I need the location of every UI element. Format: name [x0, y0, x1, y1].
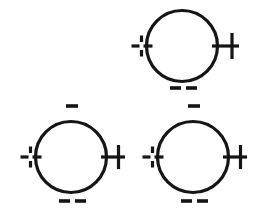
loop-top-circle — [147, 11, 218, 82]
loop-top — [132, 11, 240, 89]
loop-bottom-right-circle — [158, 122, 229, 193]
loop-bottom-left-marker-left-dashed-plus-icon — [21, 147, 42, 168]
loop-bottom-left — [21, 106, 126, 201]
loop-bottom-right-marker-left-dashed-plus-icon — [143, 147, 164, 168]
diagram-svg — [0, 0, 254, 217]
loop-bottom-right — [143, 106, 248, 201]
loop-bottom-left-circle — [36, 122, 107, 193]
diagram-canvas — [0, 0, 254, 217]
loop-top-marker-left-dashed-plus-icon — [132, 36, 153, 57]
